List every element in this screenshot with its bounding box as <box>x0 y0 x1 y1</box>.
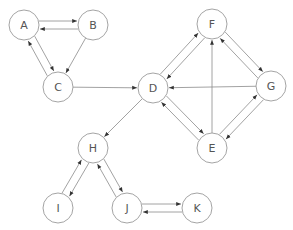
edge-g-to-f <box>220 38 258 78</box>
node-c: C <box>43 72 73 102</box>
node-label: F <box>209 18 215 31</box>
edge-f-to-g <box>225 32 263 72</box>
edge-d-to-f <box>160 33 198 74</box>
edge-e-to-d <box>161 102 198 140</box>
edge-h-to-j <box>104 159 123 192</box>
edges-layer <box>28 21 263 212</box>
edge-h-to-i <box>70 163 89 196</box>
node-d: D <box>138 73 168 103</box>
node-k: K <box>182 193 212 223</box>
node-label: B <box>89 19 97 32</box>
node-label: C <box>54 81 62 94</box>
node-i: I <box>43 193 73 223</box>
node-label: I <box>56 202 59 215</box>
nodes-layer: ABCDFGEHIJK <box>9 9 286 223</box>
edge-d-to-e <box>166 96 203 134</box>
node-b: B <box>78 10 108 40</box>
edge-j-to-h <box>97 164 116 197</box>
edge-c-to-a <box>28 41 47 76</box>
edge-b-to-c <box>66 38 86 73</box>
node-label: A <box>20 19 28 32</box>
node-label: J <box>124 202 128 215</box>
node-g: G <box>256 71 286 101</box>
node-h: H <box>78 133 108 163</box>
edge-i-to-h <box>62 160 81 193</box>
node-e: E <box>197 133 227 163</box>
node-label: H <box>89 142 97 155</box>
edge-g-to-e <box>226 100 264 140</box>
node-label: D <box>149 82 157 95</box>
edge-g-to-d <box>169 86 256 87</box>
node-label: K <box>193 202 201 215</box>
edge-e-to-g <box>219 95 257 135</box>
edge-f-to-d <box>167 38 205 79</box>
node-label: E <box>209 142 216 155</box>
edge-d-to-h <box>104 99 142 137</box>
directed-graph-diagram: ABCDFGEHIJK <box>0 0 293 230</box>
node-f: F <box>197 9 227 39</box>
edge-c-to-d <box>73 87 137 88</box>
node-j: J <box>112 193 142 223</box>
node-label: G <box>267 80 276 93</box>
edge-a-to-c <box>35 36 54 71</box>
node-a: A <box>9 10 39 40</box>
